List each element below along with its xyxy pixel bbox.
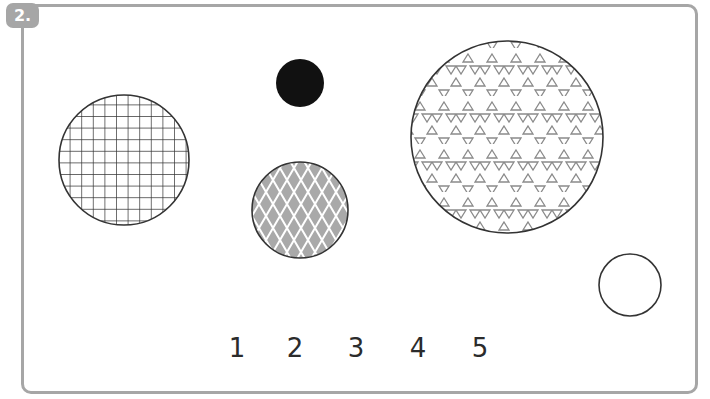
black-circle bbox=[276, 59, 324, 107]
option-5[interactable]: 5 bbox=[472, 333, 489, 363]
option-3[interactable]: 3 bbox=[348, 333, 365, 363]
triangle-circle bbox=[411, 41, 603, 233]
empty-circle bbox=[599, 254, 661, 316]
option-1[interactable]: 1 bbox=[229, 333, 246, 363]
option-2[interactable]: 2 bbox=[287, 333, 304, 363]
option-4[interactable]: 4 bbox=[410, 333, 427, 363]
diamond-circle bbox=[252, 162, 348, 258]
grid-circle bbox=[59, 95, 189, 225]
